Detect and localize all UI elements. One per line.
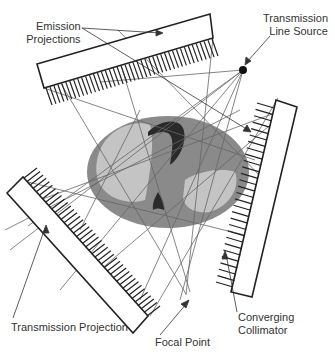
- collimator-septum: [39, 185, 52, 195]
- collimator-septum: [247, 148, 264, 153]
- collimator-septum: [98, 251, 111, 261]
- collimator-septum: [147, 306, 160, 316]
- label-line: Collimator: [238, 324, 294, 337]
- collimator-septum: [116, 272, 129, 282]
- label-line: Projections: [26, 33, 81, 46]
- label-line: Converging: [238, 311, 294, 324]
- collimator-septum: [141, 299, 154, 309]
- collimator-septum: [104, 258, 117, 268]
- label-line: Line Source: [263, 25, 328, 38]
- collimator-septum: [61, 209, 74, 219]
- collimator-septum: [42, 189, 55, 199]
- pointer-transmission: [13, 228, 45, 318]
- collimator-septum: [119, 275, 132, 285]
- collimator-septum: [225, 244, 242, 249]
- label-converging-collimator: Converging Collimator: [238, 311, 294, 337]
- arrow-head: [181, 300, 189, 308]
- collimator-septum: [135, 292, 148, 302]
- diagram-canvas: Emission Projections Transmission Line S…: [0, 0, 335, 353]
- transmission-line-source: [239, 66, 247, 74]
- collimator-septum: [231, 218, 248, 223]
- collimator-septum: [228, 231, 245, 236]
- collimator-septum: [235, 199, 252, 204]
- collimator-septum: [27, 171, 40, 181]
- collimator-septum: [216, 282, 233, 287]
- label-line: Emission: [26, 20, 81, 33]
- collimator-septum: [226, 237, 243, 242]
- collimator-septum: [52, 199, 65, 209]
- collimator-septum: [113, 268, 126, 278]
- collimator-septum: [79, 230, 92, 240]
- collimator-septum: [58, 206, 71, 216]
- label-emission-projections: Emission Projections: [26, 20, 81, 46]
- label-line: Transmission: [263, 12, 328, 25]
- collimator-septum: [125, 282, 138, 292]
- collimator-septum: [245, 154, 262, 159]
- collimator-septum: [92, 244, 105, 254]
- label-focal-point: Focal Point: [155, 336, 210, 349]
- pointer-focal: [160, 303, 187, 335]
- label-transmission-line-source: Transmission Line Source: [263, 12, 328, 38]
- collimator-septum: [220, 263, 237, 268]
- collimator-septum: [95, 247, 108, 257]
- label-transmission-projection: Transmission Projection: [11, 321, 128, 334]
- detector-housing: [231, 100, 297, 297]
- pointer-line-source: [247, 36, 270, 62]
- collimator-septum: [82, 234, 95, 244]
- collimator-septum: [110, 265, 123, 275]
- collimator-septum: [232, 212, 249, 217]
- collimator-septum: [76, 227, 89, 237]
- collimator-septum: [30, 175, 43, 185]
- arrow-head: [243, 125, 251, 132]
- pointer-emission-1: [82, 28, 160, 33]
- collimator-septum: [229, 224, 246, 229]
- collimator-septum: [89, 240, 102, 250]
- collimator-septum: [257, 103, 274, 108]
- collimator-septum: [64, 213, 77, 223]
- collimator-septum: [217, 276, 234, 281]
- spect-geometry-diagram: [0, 0, 335, 353]
- collimator-septum: [122, 278, 135, 288]
- collimator-septum: [129, 285, 142, 295]
- arrow-head: [222, 251, 228, 259]
- collimator-septum: [234, 205, 251, 210]
- collimator-septum: [73, 223, 86, 233]
- collimator-septum: [219, 269, 236, 274]
- collimator-septum: [101, 254, 114, 264]
- collimator-septum: [67, 216, 80, 226]
- collimator-septum: [24, 168, 37, 178]
- collimator-septum: [138, 296, 151, 306]
